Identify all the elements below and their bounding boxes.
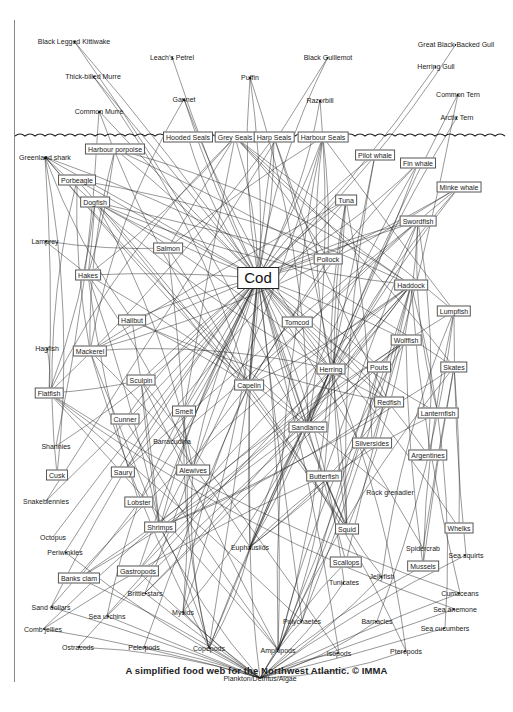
species-node-whelks: Whelks	[445, 523, 474, 534]
species-node-lumpfish: Lumpfish	[437, 306, 471, 317]
predation-edge	[277, 322, 297, 650]
species-node-thick-billed-murre: Thick-billed Murre	[65, 72, 121, 81]
predation-edge	[49, 202, 95, 393]
species-node-flatfish: Flatfish	[35, 388, 64, 399]
species-node-sea-cucumbers: Sea cucumbers	[421, 624, 470, 633]
species-node-comb-jellies: Comb jellies	[24, 625, 62, 634]
species-node-euphausiids: Euphausiids	[231, 543, 269, 552]
species-node-skates: Skates	[440, 362, 467, 373]
species-node-silversides: Silversides	[352, 438, 392, 449]
species-node-isopods: Isopods	[327, 649, 352, 658]
species-node-gastropods: Gastropods	[117, 566, 159, 577]
species-node-lobster: Lobster	[124, 497, 153, 508]
species-node-polychaetes: Polychaetes	[283, 617, 321, 626]
species-node-copepods: Copepods	[193, 644, 225, 653]
species-node-sandlance: Sandlance	[288, 422, 327, 433]
species-node-tuna: Tuna	[335, 195, 357, 206]
species-node-pollock: Pollock	[314, 254, 343, 265]
species-node-cod: Cod	[237, 267, 279, 289]
predation-edge	[141, 380, 278, 650]
predation-edge	[249, 77, 261, 385]
predation-edge	[168, 248, 184, 411]
species-node-mussels: Mussels	[407, 561, 439, 572]
species-node-tomcod: Tomcod	[282, 317, 313, 328]
species-node-rock-grenadier: Rock grenadier	[366, 488, 413, 497]
species-node-cusk: Cusk	[46, 470, 68, 481]
species-node-butterfish: Butterfish	[306, 471, 342, 482]
predation-edge	[382, 311, 454, 576]
species-node-banks-clam: Banks clam	[58, 573, 100, 584]
predation-edge	[160, 527, 209, 648]
species-node-greenland-shark: Greenland shark	[19, 153, 71, 162]
species-node-scallops: Scallops	[330, 557, 362, 568]
species-node-squid: Squid	[335, 524, 359, 535]
species-node-herring: Herring	[317, 364, 346, 375]
predation-edge	[258, 100, 320, 278]
species-node-ostracods: Ostracods	[62, 643, 94, 652]
species-node-redfish: Redfish	[374, 397, 404, 408]
species-node-haddock: Haddock	[394, 280, 428, 291]
figure-caption: A simplified food web for the Northwest …	[0, 665, 513, 676]
species-node-sculpin: Sculpin	[127, 375, 156, 386]
predation-edge	[250, 187, 459, 547]
predation-edge	[45, 157, 50, 393]
species-node-mysids: Mysids	[172, 608, 194, 617]
species-node-sea-urchins: Sea urchins	[89, 612, 126, 621]
predation-edge	[209, 427, 308, 648]
species-node-fin-whale: Fin whale	[400, 158, 436, 169]
predation-edge	[258, 278, 279, 650]
species-node-harbour-seals: Harbour Seals	[298, 132, 349, 143]
species-node-dogfish: Dogfish	[80, 197, 110, 208]
species-node-octopus: Octopus	[40, 533, 66, 542]
predation-edge	[417, 221, 438, 413]
predation-edge	[258, 278, 459, 528]
species-node-shrimps: Shrimps	[144, 522, 176, 533]
species-node-pilot-whale: Pilot whale	[355, 150, 395, 161]
predation-edge	[168, 137, 323, 248]
predation-edge	[183, 278, 258, 612]
species-node-wolffish: Wolffish	[391, 335, 422, 346]
species-node-sea-anemone: Sea anemone	[433, 605, 477, 614]
species-node-harbour-porpoise: Harbour porpoise	[85, 144, 145, 155]
species-node-minke-whale: Minke whale	[437, 182, 482, 193]
species-node-argentines: Argentines	[408, 450, 447, 461]
predation-edge	[172, 57, 258, 278]
species-node-smelt: Smelt	[172, 406, 196, 417]
species-node-black-guillemot: Black Guillemot	[304, 53, 353, 62]
species-node-cunner: Cunner	[111, 414, 140, 425]
predation-edge	[79, 285, 411, 578]
species-node-harp-seals: Harp Seals	[254, 132, 295, 143]
species-node-amphipods: Amphipods	[260, 646, 295, 655]
species-node-gannet: Gannet	[173, 95, 196, 104]
species-node-lanternfish: Lanternfish	[418, 408, 459, 419]
species-node-salmon: Salmon	[153, 243, 183, 254]
species-node-hooded-seals: Hooded Seals	[163, 132, 213, 143]
species-node-porbeagle: Porbeagle	[58, 175, 96, 186]
predation-edge	[183, 385, 249, 612]
species-node-pteropods: Pteropods	[390, 647, 422, 656]
species-node-mackerel: Mackerel	[73, 346, 107, 357]
species-node-shannies: Shannies	[41, 442, 70, 451]
species-node-sand-dollars: Sand dollars	[32, 603, 71, 612]
species-node-common-tern: Common Tern	[436, 90, 480, 99]
species-node-barnacles: Barnacles	[361, 617, 392, 626]
species-node-arctic-tern: Arctic Tern	[441, 113, 474, 122]
species-node-common-murre: Common Murre	[75, 107, 124, 116]
species-node-puffin: Puffin	[241, 73, 259, 82]
species-node-capelin: Capelin	[234, 380, 264, 391]
species-node-sea-squirts: Sea squirts	[448, 551, 483, 560]
species-node-great-black-backed-gull: Great Black Backed Gull	[418, 40, 494, 49]
species-node-tunicates: Tunicates	[329, 578, 359, 587]
species-node-grey-seals: Grey Seals	[215, 132, 256, 143]
species-node-snakeblennies: Snakeblennies	[23, 497, 69, 506]
predation-edge	[372, 94, 458, 443]
predation-edge	[79, 578, 260, 678]
species-node-lamprey: Lamprey	[31, 237, 58, 246]
species-node-swordfish: Swordfish	[400, 216, 437, 227]
predation-edge	[184, 99, 258, 278]
species-node-cumaceans: Cumaceans	[441, 589, 478, 598]
species-node-halibut: Halibut	[118, 315, 146, 326]
predation-edge	[88, 274, 258, 278]
species-node-hakes: Hakes	[75, 270, 101, 281]
species-node-brittle-stars: Brittle stars	[127, 589, 162, 598]
